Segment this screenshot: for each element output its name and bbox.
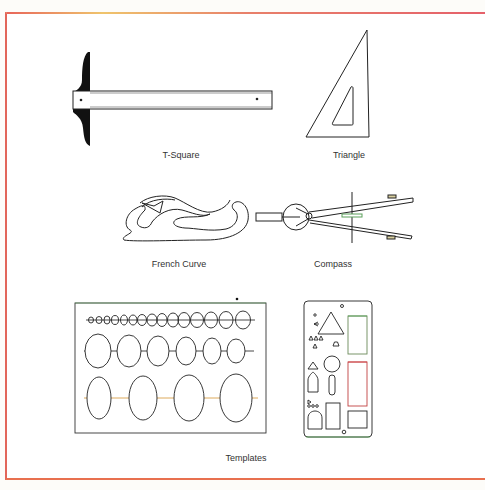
triangle-icon [306, 30, 369, 137]
t-square-label: T-Square [162, 150, 199, 160]
shape-template-icon [304, 301, 372, 437]
ellipse-template-icon [75, 298, 266, 433]
french-curve-icon [123, 196, 248, 241]
triangle-label: Triangle [333, 150, 365, 160]
t-square-icon [73, 52, 272, 146]
templates-label: Templates [225, 453, 266, 463]
compass-icon [256, 192, 413, 243]
french-curve-label: French Curve [152, 259, 207, 269]
compass-label: Compass [314, 259, 352, 269]
